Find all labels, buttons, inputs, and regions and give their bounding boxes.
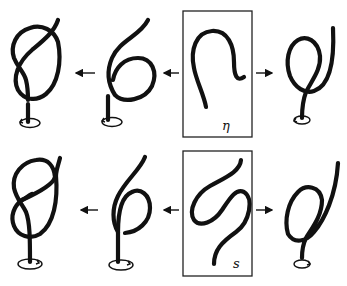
eta-curve (193, 31, 244, 107)
knot-diagram (0, 0, 347, 286)
bottom-row (12, 151, 338, 276)
bottom-mid-anchor (109, 260, 133, 270)
top-loop-with-tail (108, 20, 154, 100)
top-row (13, 11, 333, 137)
s-curve (192, 160, 250, 264)
bottom-right-anchor (294, 260, 310, 268)
top-overhand-knot (13, 20, 60, 100)
bottom-simple-loop (286, 163, 338, 258)
bottom-loop-body (118, 191, 150, 262)
top-simple-loop (288, 28, 334, 118)
eta-label: η (222, 118, 230, 133)
s-label: s (233, 256, 240, 271)
bottom-figure-knot-upper (14, 160, 55, 262)
